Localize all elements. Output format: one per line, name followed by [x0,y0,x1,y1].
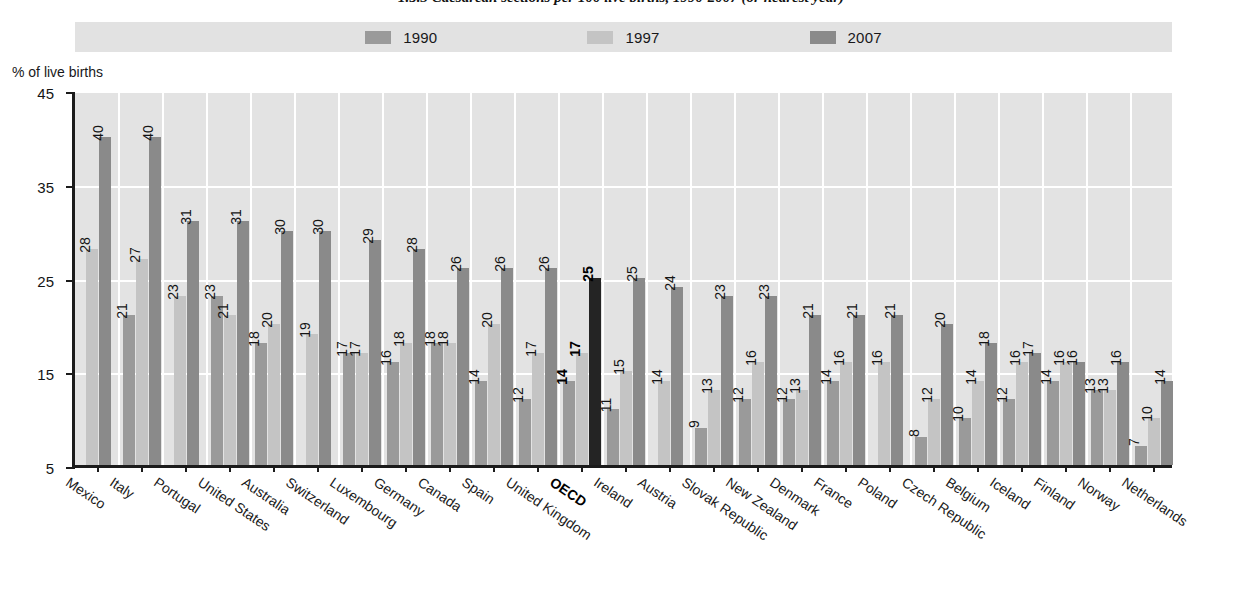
bar: 20 [941,324,953,465]
bar-value-label: 20 [260,313,274,329]
bar-value-label: 40 [91,125,105,141]
x-axis-tick [757,465,759,472]
bar-group: 141725 [559,93,603,465]
x-axis-category-label: Italy [107,474,137,502]
bar: 13 [1104,390,1116,465]
bar: 18 [400,343,412,465]
x-axis-tick [537,465,539,472]
bar-value-label: 8 [907,429,921,437]
bar: 10 [1148,418,1160,465]
x-axis-category-label: Portugal [151,474,203,516]
bar: 16 [840,362,852,465]
bar-group: 141621 [823,93,867,465]
x-axis-tick [229,465,231,472]
x-axis-tick [625,465,627,472]
legend-item-1990: 1990 [365,29,437,46]
bar: 12 [783,399,795,465]
bar-value-label: 16 [1065,350,1079,366]
bar-value-label: 26 [449,256,463,272]
bar: 10 [959,418,971,465]
y-axis-tick [66,280,75,282]
bar: 19 [306,334,318,465]
bar: 17 [343,353,355,466]
bar: 14 [475,381,487,465]
bar: 12 [1003,399,1015,465]
bar: 16 [1060,362,1072,465]
bar-value-label: 19 [298,322,312,338]
chart-page: 1.5.3 Caesarean sections per 100 live bi… [0,0,1242,604]
bar: 13 [796,390,808,465]
bar-value-label: 21 [845,303,859,319]
x-axis-tick [669,465,671,472]
bar: 23 [211,296,223,465]
y-axis-tick [66,373,75,375]
legend-label-2007: 2007 [848,29,882,46]
bar: 25 [589,278,601,466]
bar-value-label: 16 [1109,350,1123,366]
bar: 20 [268,324,280,465]
bar: 14 [563,381,575,465]
bar-value-label: 17 [348,341,362,357]
bar: 16 [1117,362,1129,465]
bar: 16 [752,362,764,465]
x-axis-tick [141,465,143,472]
bar: 25 [633,278,645,466]
bar-value-label: 21 [216,303,230,319]
legend-label-1997: 1997 [625,29,659,46]
bar-group: 232131 [207,93,251,465]
bar-value-label: 16 [870,350,884,366]
y-axis-tick-label: 15 [37,366,54,383]
bar: 21 [891,315,903,465]
bar-value-label: 12 [995,388,1009,404]
bar: 40 [99,137,111,465]
legend-item-1997: 1997 [587,29,659,46]
bar-value-label: 40 [141,125,155,141]
bar-value-label: 30 [311,219,325,235]
x-axis-category-label: Netherlands [1119,474,1191,529]
x-axis-category-labels: MexicoItalyPortugalUnited StatesAustrali… [72,474,1172,594]
bar-value-label: 14 [1153,369,1167,385]
bar-value-label: 27 [128,247,142,263]
bar: 31 [187,221,199,465]
bar-group: 81220 [911,93,955,465]
bar-group: 1621 [867,93,911,465]
bar-value-label: 28 [405,238,419,254]
bar: 14 [972,381,984,465]
bar-group: 91323 [691,93,735,465]
y-axis-title: % of live births [12,64,103,80]
bar: 26 [501,268,513,465]
x-axis-tick [889,465,891,472]
bar: 27 [136,259,148,465]
bar-value-label: 17 [524,341,538,357]
bar-value-label: 16 [379,350,393,366]
bar-value-label: 23 [713,284,727,300]
x-axis-category-label: Ireland [591,474,635,511]
bar: 21 [809,315,821,465]
bar-value-label: 17 [568,341,582,357]
bar-value-label: 16 [832,350,846,366]
bar: 40 [149,137,161,465]
bar-group: 111525 [603,93,647,465]
x-axis-category-label: Poland [855,474,900,512]
bar-group: 1424 [647,93,691,465]
bar-group: 121623 [735,93,779,465]
bar-value-label: 18 [392,331,406,347]
bar: 16 [1016,362,1028,465]
y-axis-tick-label: 5 [46,460,54,477]
y-axis-tick-label: 45 [37,85,54,102]
x-axis-category-label: Norway [1075,474,1123,514]
bar-group: 71014 [1131,93,1175,465]
bar: 12 [739,399,751,465]
bar-group: 2840 [75,93,119,465]
bar-value-label: 26 [537,256,551,272]
bar: 16 [878,362,890,465]
bar-value-label: 20 [480,313,494,329]
bar-group: 131316 [1087,93,1131,465]
bar-value-label: 14 [555,369,569,385]
bar: 28 [86,249,98,465]
bar-value-label: 14 [650,369,664,385]
bar-group: 182030 [251,93,295,465]
bar-value-label: 25 [625,266,639,282]
bar: 21 [224,315,236,465]
bar-value-label: 16 [744,350,758,366]
